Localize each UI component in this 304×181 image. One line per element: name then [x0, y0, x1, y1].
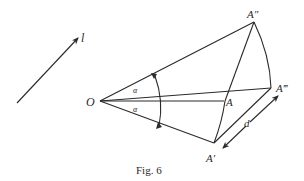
edge-O-A3 — [100, 88, 271, 101]
label-A-double-prime: A″ — [246, 8, 259, 20]
label-A-prime: A′ — [205, 152, 216, 164]
figure-caption: Fig. 6 — [136, 164, 162, 176]
label-O: O — [86, 95, 95, 109]
figure-diagram: l α α d O A A″ A‴ A′ Fig. 6 — [0, 0, 304, 181]
edge-A-A1 — [214, 101, 225, 143]
edge-O-A2 — [100, 22, 254, 101]
label-alpha-upper: α — [133, 86, 138, 95]
direction-vector-l — [17, 38, 78, 103]
d-arrow-up — [250, 96, 278, 122]
label-l: l — [81, 31, 85, 45]
edge-O-A1 — [100, 101, 214, 143]
label-d: d — [244, 117, 250, 129]
edge-A2-A3 — [254, 22, 271, 88]
d-arrow-down — [223, 126, 246, 148]
direction-arrow — [17, 38, 78, 103]
label-alpha-lower: α — [133, 105, 138, 114]
label-A-triple-prime: A‴ — [275, 82, 289, 94]
label-A: A — [225, 96, 233, 108]
